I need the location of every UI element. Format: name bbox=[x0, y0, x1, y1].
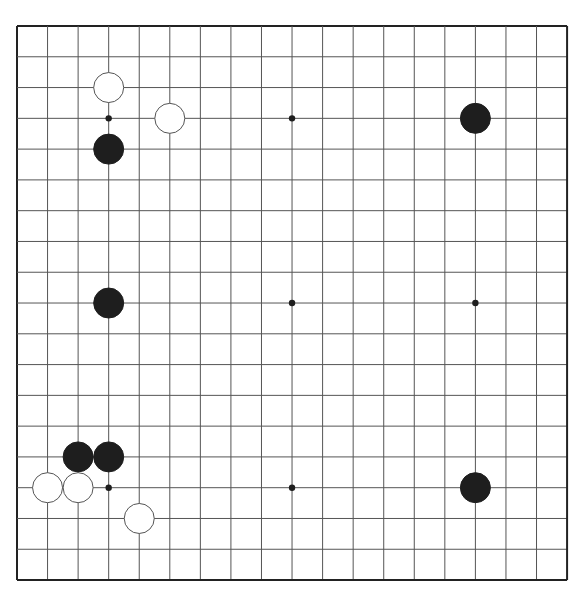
star-point bbox=[289, 485, 295, 491]
star-point bbox=[289, 115, 295, 121]
white-stone[interactable] bbox=[63, 473, 93, 503]
black-stone[interactable] bbox=[94, 442, 124, 472]
white-stone[interactable] bbox=[33, 473, 63, 503]
black-stone[interactable] bbox=[460, 473, 490, 503]
star-point bbox=[289, 300, 295, 306]
go-board[interactable] bbox=[0, 0, 572, 612]
white-stone[interactable] bbox=[124, 503, 154, 533]
black-stone[interactable] bbox=[460, 103, 490, 133]
white-stone[interactable] bbox=[94, 73, 124, 103]
black-stone[interactable] bbox=[94, 288, 124, 318]
star-point bbox=[105, 115, 111, 121]
black-stone[interactable] bbox=[94, 134, 124, 164]
star-point bbox=[105, 485, 111, 491]
white-stone[interactable] bbox=[155, 103, 185, 133]
black-stone[interactable] bbox=[63, 442, 93, 472]
star-point bbox=[472, 300, 478, 306]
